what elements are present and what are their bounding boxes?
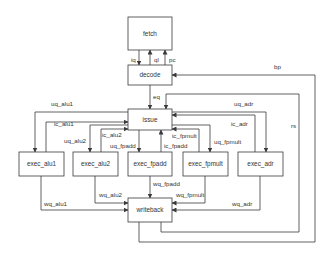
edge-label-uq-fpmult: uq_fpmult bbox=[214, 138, 241, 145]
edge-label-uq-alu1: uq_alu1 bbox=[51, 100, 74, 107]
node-label: exec_fpadd bbox=[133, 160, 166, 168]
edge-label-ic-adr: ic_adr bbox=[231, 120, 248, 127]
node-exec-adr: exec_adr bbox=[238, 152, 283, 176]
node-exec-alu2: exec_alu2 bbox=[73, 152, 118, 176]
node-exec-fpmult: exec_fpmult bbox=[183, 152, 228, 176]
edge-label-wq-alu2: wq_alu2 bbox=[98, 191, 123, 198]
node-writeback: writeback bbox=[128, 198, 172, 222]
node-issue: issue bbox=[128, 109, 172, 130]
edge-label-bp: bp bbox=[274, 63, 281, 70]
pipeline-diagram: fetch decode issue exec_alu1 exec_alu2 e… bbox=[0, 0, 331, 255]
edge-label-wq-adr: wq_adr bbox=[231, 200, 252, 207]
edge-label-rs: rs bbox=[291, 122, 296, 129]
node-label: writeback bbox=[136, 206, 165, 213]
edge-label-ic-alu1: ic_alu1 bbox=[54, 120, 74, 127]
edge-label-ic-fpadd: ic_fpadd bbox=[164, 142, 188, 149]
node-label: fetch bbox=[143, 30, 157, 37]
node-exec-fpadd: exec_fpadd bbox=[128, 152, 172, 176]
node-exec-alu1: exec_alu1 bbox=[19, 152, 64, 176]
edge-label-iq: iq bbox=[131, 56, 136, 63]
edge-label-eq: eq bbox=[153, 93, 160, 100]
node-label: exec_alu2 bbox=[81, 160, 111, 168]
edge-label-ic-fpmult: ic_fpmult bbox=[172, 132, 197, 139]
node-label: issue bbox=[143, 116, 158, 123]
node-label: exec_alu1 bbox=[27, 160, 57, 168]
node-label: exec_adr bbox=[247, 160, 274, 168]
wire-wq-alu2 bbox=[95, 176, 128, 203]
edge-label-uq-alu2: uq_alu2 bbox=[64, 137, 87, 144]
edge-label-pc: pc bbox=[169, 56, 176, 63]
edge-label-wq-fpadd: wq_fpadd bbox=[152, 180, 180, 187]
edge-label-uq-fpadd: uq_fpadd bbox=[110, 142, 136, 149]
edge-label-uq-adr: uq_adr bbox=[234, 100, 253, 107]
edge-label-wq-alu1: wq_alu1 bbox=[43, 200, 68, 207]
edge-label-ql: ql bbox=[154, 56, 159, 63]
edge-label-wq-fpmult: wq_fpmult bbox=[175, 191, 204, 198]
node-decode: decode bbox=[128, 65, 172, 85]
edge-label-ic-alu2: ic_alu2 bbox=[102, 131, 122, 138]
node-fetch: fetch bbox=[128, 17, 172, 50]
node-label: decode bbox=[140, 71, 161, 78]
node-label: exec_fpmult bbox=[188, 160, 223, 168]
